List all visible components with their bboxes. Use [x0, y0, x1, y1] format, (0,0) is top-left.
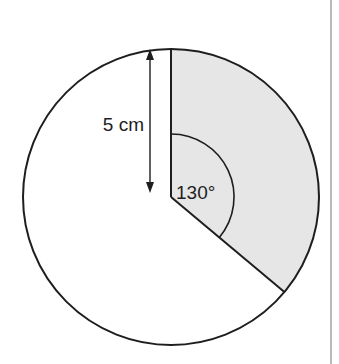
arrow-down-icon [146, 182, 154, 193]
angle-label: 130° [176, 182, 215, 203]
radius-label: 5 cm [103, 114, 144, 135]
shaded-sector [171, 49, 319, 292]
circle-sector-diagram: 5 cm 130° [0, 0, 339, 364]
